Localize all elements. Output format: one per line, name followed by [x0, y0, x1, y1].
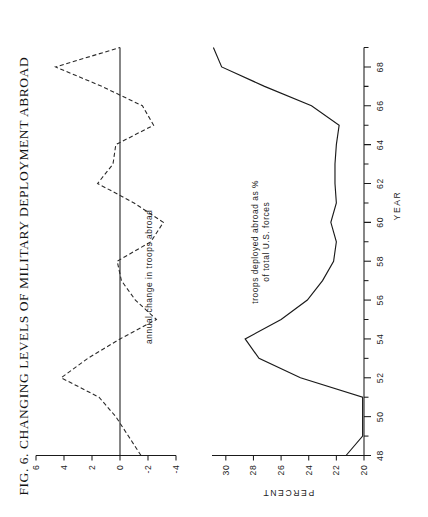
percent-y-tick-label: 30 — [221, 464, 231, 475]
figure-page: FIG. 6. CHANGING LEVELS OF MILITARY DEPL… — [0, 0, 428, 517]
year-x-tick-label: 64 — [375, 139, 385, 150]
percent-y-tick-label: 26 — [276, 464, 286, 475]
upper-y-tick-label: 6 — [31, 464, 41, 469]
annotation-percent-line2: of total U.S. forces — [261, 201, 271, 281]
annotation-percent-line1: troops deployed abroad as % — [250, 179, 260, 303]
year-x-tick-label: 58 — [375, 255, 385, 266]
year-x-tick-label: 52 — [375, 372, 385, 383]
rotated-figure-canvas: FIG. 6. CHANGING LEVELS OF MILITARY DEPL… — [0, 0, 428, 517]
upper-y-tick-label: -2 — [143, 464, 153, 473]
percent-axis-label: PERCENT — [262, 487, 314, 497]
percent-y-tick-label: 22 — [331, 464, 341, 475]
percent-y-tick-label: 24 — [304, 464, 314, 475]
upper-y-tick-label: -4 — [171, 464, 181, 473]
year-x-tick-label: 68 — [375, 61, 385, 72]
chart-percent-abroad — [213, 47, 362, 455]
upper-y-tick-label: 4 — [59, 464, 69, 469]
figure-body: FIG. 6. CHANGING LEVELS OF MILITARY DEPL… — [0, 0, 428, 517]
year-x-tick-label: 66 — [375, 100, 385, 111]
year-x-tick-label: 60 — [375, 216, 385, 227]
axes-layer: 6420-2-4202224262830PERCENT4850525456586… — [31, 47, 402, 497]
upper-y-tick-label: 0 — [115, 464, 125, 469]
year-x-tick-label: 62 — [375, 178, 385, 189]
year-axis-label: YEAR — [392, 190, 402, 220]
year-x-tick-label: 56 — [375, 294, 385, 305]
year-x-tick-label: 54 — [375, 333, 385, 344]
upper-y-tick-label: 2 — [87, 464, 97, 469]
annotation-annual-change: annual change in troops abroad — [144, 209, 154, 343]
series-percent-abroad — [213, 47, 362, 455]
percent-y-tick-label: 20 — [359, 464, 369, 475]
figure-plot-svg: 6420-2-4202224262830PERCENT4850525456586… — [0, 0, 428, 517]
year-x-tick-label: 50 — [375, 411, 385, 422]
percent-y-tick-label: 28 — [248, 464, 258, 475]
annotation-layer: annual change in troops abroadtroops dep… — [144, 179, 270, 343]
year-x-tick-label: 48 — [375, 450, 385, 461]
